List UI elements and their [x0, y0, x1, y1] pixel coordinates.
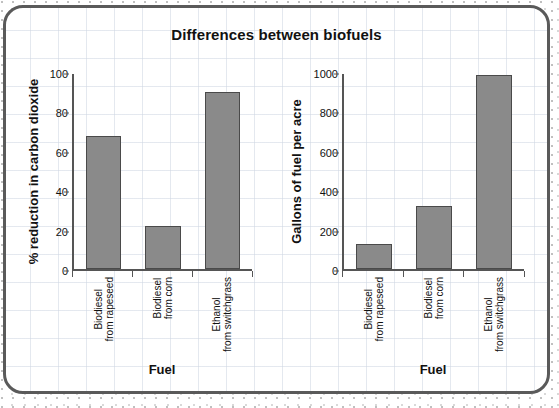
x-tick-label-line2: from rapeseed: [104, 277, 115, 341]
y-tick-mark: [334, 113, 339, 114]
y-tick-mark: [334, 192, 339, 193]
y-axis-ticks-left: 020406080100: [34, 74, 68, 271]
x-tick-label: Biodieselfrom corn: [423, 277, 445, 319]
x-label-cell: Ethanolfrom switchgrass: [193, 277, 252, 367]
x-tick-label: Biodieselfrom rapeseed: [93, 277, 115, 341]
chart-content: Differences between biofuels % reduction…: [6, 8, 547, 391]
x-tick-mark: [252, 271, 253, 277]
x-tick-label-line1: Biodiesel: [363, 289, 374, 330]
x-tick-label: Biodieselfrom corn: [152, 277, 174, 319]
x-tick-label-line1: Ethanol: [211, 298, 222, 332]
x-tick-mark: [524, 271, 525, 277]
x-label-cell: Biodieselfrom rapeseed: [74, 277, 133, 367]
chart-card: Differences between biofuels % reduction…: [3, 5, 550, 394]
y-tick-mark: [64, 113, 69, 114]
y-tick-mark: [334, 231, 339, 232]
y-tick-mark: [64, 192, 69, 193]
x-tick-label: Ethanolfrom switchgrass: [483, 277, 505, 352]
x-label-cell: Biodieselfrom rapeseed: [344, 277, 404, 367]
plot-area-right: 02004006008001000 Biodieselfrom rapeseed…: [342, 74, 524, 271]
bar: [145, 226, 181, 269]
x-tick-label-line2: from corn: [434, 277, 445, 319]
x-tick-label-line1: Biodiesel: [423, 278, 434, 319]
x-axis-labels-left: Biodieselfrom rapeseedBiodieselfrom corn…: [74, 277, 252, 367]
y-axis-ticks-right: 02004006008001000: [304, 74, 338, 271]
bar-cell: [404, 74, 464, 269]
x-tick-label-line1: Ethanol: [483, 298, 494, 332]
plot-area-left: 020406080100 Biodieselfrom rapeseedBiodi…: [72, 74, 252, 271]
x-tick-label-line1: Biodiesel: [152, 278, 163, 319]
chart-title: Differences between biofuels: [6, 26, 547, 43]
bar-cell: [74, 74, 133, 269]
x-axis-title: Fuel: [72, 362, 252, 377]
y-axis-label: Gallons of fuel per acre: [286, 66, 306, 276]
bar: [205, 92, 241, 269]
x-label-cell: Biodieselfrom corn: [404, 277, 464, 367]
bar-cell: [464, 74, 524, 269]
x-axis-title: Fuel: [342, 362, 524, 377]
y-axis-label-text: Gallons of fuel per acre: [289, 99, 304, 244]
x-label-cell: Biodieselfrom corn: [133, 277, 192, 367]
bar-cell: [344, 74, 404, 269]
x-tick-mark: [72, 271, 73, 277]
x-tick-label-line2: from switchgrass: [494, 277, 505, 352]
bar-cell: [133, 74, 192, 269]
bar-series-left: [74, 74, 252, 269]
y-tick-mark: [334, 271, 339, 272]
y-tick-mark: [334, 74, 339, 75]
y-tick-mark: [64, 231, 69, 232]
x-tick-label-line1: Biodiesel: [93, 289, 104, 330]
co2-reduction-chart: % reduction in carbon dioxide 0204060801…: [24, 66, 274, 386]
x-tick-label-line2: from corn: [163, 277, 174, 319]
x-tick-label-line2: from rapeseed: [374, 277, 385, 341]
gallons-per-acre-chart: Gallons of fuel per acre 020040060080010…: [286, 66, 541, 386]
x-tick-mark: [342, 271, 343, 277]
y-tick-mark: [64, 74, 69, 75]
x-tick-label: Ethanolfrom switchgrass: [211, 277, 233, 352]
bar-series-right: [344, 74, 524, 269]
y-tick-mark: [334, 152, 339, 153]
x-tick-label: Biodieselfrom rapeseed: [363, 277, 385, 341]
bar: [416, 206, 452, 269]
x-axis-labels-right: Biodieselfrom rapeseedBiodieselfrom corn…: [344, 277, 524, 367]
y-tick-mark: [64, 152, 69, 153]
x-label-cell: Ethanolfrom switchgrass: [464, 277, 524, 367]
bar: [356, 244, 392, 269]
bar: [86, 136, 122, 269]
x-tick-label-line2: from switchgrass: [222, 277, 233, 352]
y-tick-mark: [64, 271, 69, 272]
bar-cell: [193, 74, 252, 269]
bar: [476, 75, 512, 269]
